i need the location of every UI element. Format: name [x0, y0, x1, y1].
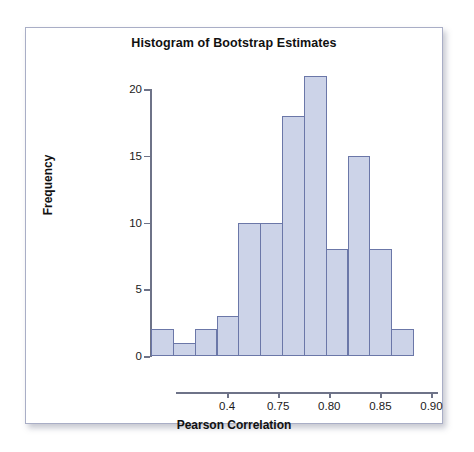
- y-axis-tick: [144, 289, 150, 291]
- x-axis-tick-label: 0.80: [304, 400, 354, 412]
- y-axis-title: Frequency: [41, 125, 55, 245]
- y-axis-tick-label: 15: [102, 150, 142, 162]
- y-axis-tick-label: 0: [102, 350, 142, 362]
- y-axis-tick-label: 20: [102, 83, 142, 95]
- x-axis-tick-label: 0.75: [253, 400, 303, 412]
- y-axis-tick: [144, 89, 150, 91]
- histogram-bar: [369, 249, 392, 356]
- y-axis-tick: [144, 156, 150, 158]
- x-axis-tick-label: 0.4: [202, 400, 252, 412]
- histogram-bar: [195, 329, 218, 356]
- y-axis-tick: [144, 356, 150, 358]
- y-axis-tick-label: 5: [102, 283, 142, 295]
- x-axis-line: [176, 392, 438, 394]
- histogram-bar: [348, 156, 371, 356]
- x-axis-tick: [380, 392, 382, 398]
- histogram-bar: [217, 316, 240, 356]
- histogram-bar: [151, 329, 174, 356]
- plot-area: [151, 48, 413, 356]
- histogram-bar: [282, 116, 305, 356]
- histogram-bar: [326, 249, 349, 356]
- histogram-bar: [173, 343, 196, 356]
- x-axis-tick: [431, 392, 433, 398]
- y-axis-tick-labels: 05101520: [94, 28, 142, 425]
- x-axis-tick-label: 0.90: [406, 400, 456, 412]
- x-axis-title: Pearson Correlation: [26, 418, 442, 432]
- figure-card: Histogram of Bootstrap Estimates Frequen…: [25, 27, 443, 424]
- x-axis-tick: [227, 392, 229, 398]
- x-axis-tick-label: 0.85: [355, 400, 405, 412]
- histogram-bar: [238, 223, 261, 357]
- histogram-bar: [391, 329, 414, 356]
- x-axis-tick: [278, 392, 280, 398]
- y-axis-tick: [144, 223, 150, 225]
- histogram-bar: [304, 76, 327, 356]
- y-axis-tick-label: 10: [102, 217, 142, 229]
- x-axis-tick: [329, 392, 331, 398]
- histogram-bar: [260, 223, 283, 357]
